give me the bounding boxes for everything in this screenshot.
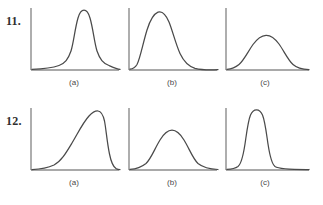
chart-axes-11b (129, 8, 217, 70)
problem-number-11: 11. (6, 14, 21, 29)
plot-cell-11a: (a) (26, 4, 122, 99)
worksheet-page: 11. (a) (b) (0, 0, 323, 205)
distribution-chart-12b (124, 104, 220, 176)
problem-row-11: 11. (a) (b) (0, 4, 323, 99)
chart-axes-11c (226, 8, 309, 70)
density-curve-11a (32, 10, 120, 69)
distribution-chart-11c (221, 4, 311, 76)
plot-caption-12a: (a) (26, 178, 122, 187)
density-curve-12b (130, 130, 218, 169)
distribution-chart-11b (124, 4, 220, 76)
plot-cell-11b: (b) (124, 4, 220, 99)
plot-caption-12b: (b) (124, 178, 220, 187)
chart-axes-11a (31, 8, 119, 70)
distribution-chart-12a (26, 104, 122, 176)
plot-cell-12b: (b) (124, 104, 220, 199)
problem-row-12: 12. (a) (b) (0, 104, 323, 199)
plot-caption-12c: (c) (221, 178, 309, 187)
plot-caption-11a: (a) (26, 78, 122, 87)
chart-axes-12b (129, 108, 217, 170)
problem-number-12: 12. (6, 114, 22, 129)
density-curve-11c (227, 35, 309, 69)
distribution-chart-11a (26, 4, 122, 76)
plot-caption-11b: (b) (124, 78, 220, 87)
plot-caption-11c: (c) (221, 78, 309, 87)
distribution-chart-12c (221, 104, 311, 176)
plot-cell-12c: (c) (221, 104, 317, 199)
density-curve-12a (32, 111, 120, 170)
plot-cell-12a: (a) (26, 104, 122, 199)
density-curve-11b (130, 12, 218, 70)
density-curve-12c (227, 110, 309, 170)
plot-cell-11c: (c) (221, 4, 317, 99)
